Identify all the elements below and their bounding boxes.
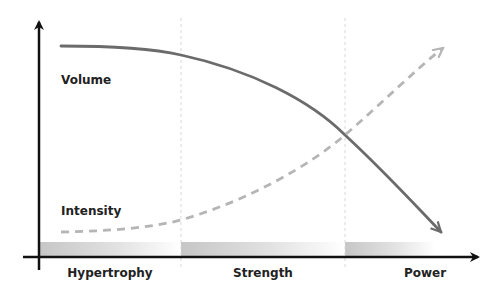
phase-label-strength: Strength: [233, 266, 293, 280]
volume-label: Volume: [61, 73, 111, 87]
intensity-label: Intensity: [61, 204, 121, 218]
phase-label-power: Power: [404, 266, 446, 280]
phase-bar-strength: [181, 242, 345, 256]
phase-bar-power: [345, 242, 435, 256]
phase-bar-hypertrophy: [40, 242, 181, 256]
periodization-diagram: Volume Intensity Hypertrophy Strength Po…: [0, 0, 501, 289]
phase-label-hypertrophy: Hypertrophy: [67, 266, 153, 280]
